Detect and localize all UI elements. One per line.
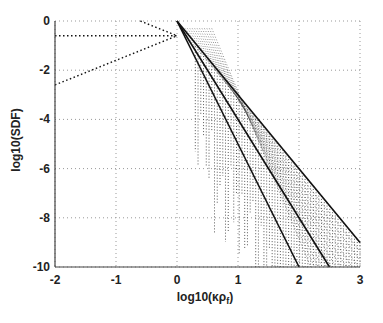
x-tick-label: -2 [50,273,61,287]
spectrum-trace [204,28,322,267]
y-tick-label: 0 [43,14,50,28]
y-tick-label: -8 [39,211,50,225]
spectrum-trace [195,28,341,267]
series-lines [55,21,360,267]
sdf-chart: -2-10123 0-2-4-6-8-10 log10(κρf) log10(S… [0,0,383,323]
spectrum-trace [207,28,318,267]
x-tick-label: 1 [235,273,242,287]
y-tick-label: -2 [39,63,50,77]
series-low-wavenumber-falling [140,21,177,36]
x-tick-label: 0 [174,273,181,287]
x-tick-label: 2 [296,273,303,287]
y-axis-label: log10(SDF) [9,108,23,171]
spectrum-trace [192,28,346,267]
y-tick-label: -10 [33,260,51,274]
y-tick-label: -6 [39,162,50,176]
spectrum-trace [197,28,336,267]
spectrum-trace [209,28,314,267]
x-tick-label: -1 [111,273,122,287]
y-tick-labels: 0-2-4-6-8-10 [33,14,51,274]
spectrum-trace [200,28,331,267]
spectrum-trace [212,28,311,267]
x-axis-label: log10(κρf) [177,290,233,306]
x-tick-labels: -2-10123 [50,273,364,287]
spectra-band [180,28,360,267]
y-tick-label: -4 [39,112,50,126]
series-asymptote-2 [177,21,330,267]
x-tick-label: 3 [357,273,364,287]
series-asymptote-1 [177,21,360,242]
